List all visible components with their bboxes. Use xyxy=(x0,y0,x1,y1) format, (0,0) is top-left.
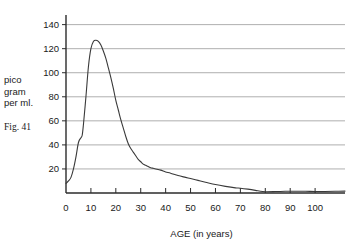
x-tick-label: 40 xyxy=(160,202,171,213)
x-tick-label: 50 xyxy=(185,202,196,213)
x-tick-label: 70 xyxy=(235,202,246,213)
x-tick-label: 10 xyxy=(86,202,97,213)
y-axis-label-line-2: gram xyxy=(4,86,48,98)
chart-plot-area: 20406080100120140 0102030405060708090100 xyxy=(0,0,359,249)
y-tick-label: 80 xyxy=(48,91,59,102)
y-axis-label-line-3: per ml. xyxy=(4,97,48,109)
y-tick-label: 140 xyxy=(43,19,59,30)
y-axis-label: pico gram per ml. xyxy=(4,74,48,109)
y-tick-label: 20 xyxy=(48,163,59,174)
x-tick-label: 0 xyxy=(63,202,68,213)
x-tick-label: 60 xyxy=(210,202,221,213)
x-tick-label: 100 xyxy=(307,202,323,213)
x-tick-labels: 0102030405060708090100 xyxy=(63,202,323,213)
figure-container: pico gram per ml. Fig. 41 20406080100120… xyxy=(0,0,359,249)
x-axis-title: AGE (in years) xyxy=(0,228,359,239)
x-tick-label: 80 xyxy=(260,202,271,213)
y-tick-label: 40 xyxy=(48,139,59,150)
axes xyxy=(66,15,345,193)
figure-caption: Fig. 41 xyxy=(4,122,31,132)
x-tick-marks xyxy=(91,188,315,193)
y-axis-label-line-1: pico xyxy=(4,74,48,86)
x-tick-label: 30 xyxy=(135,202,146,213)
y-tick-label: 60 xyxy=(48,115,59,126)
x-tick-label: 20 xyxy=(111,202,122,213)
x-tick-label: 90 xyxy=(285,202,296,213)
y-tick-label: 120 xyxy=(43,43,59,54)
gridlines xyxy=(66,25,345,169)
x-axis-title-text: AGE (in years) xyxy=(170,228,232,239)
